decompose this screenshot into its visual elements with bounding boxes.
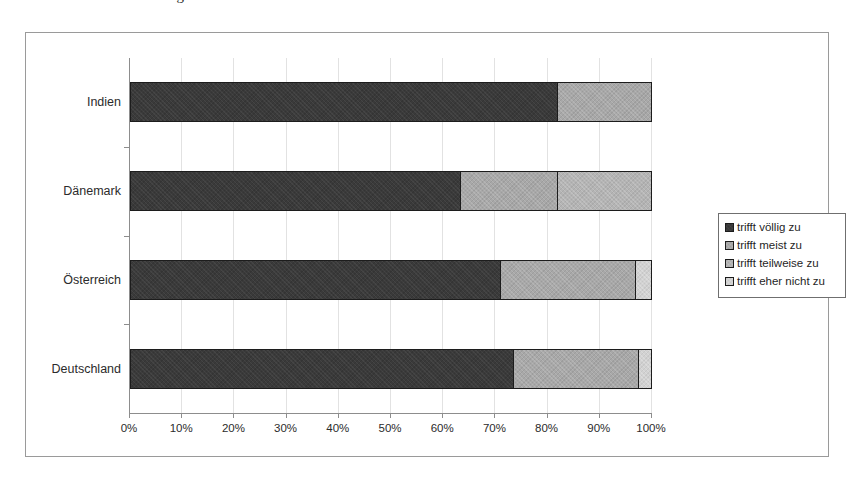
x-axis-tick xyxy=(390,413,391,418)
legend-item[interactable]: trifft eher nicht zu xyxy=(725,273,839,290)
x-axis-tick xyxy=(338,413,339,418)
x-axis-tick-label: 80% xyxy=(535,422,558,434)
bar-row xyxy=(130,171,652,211)
caption-strip: Abb. 5.5: Der das Managementfunktionen xyxy=(0,0,856,14)
x-axis-tick xyxy=(181,413,182,418)
bar-segment xyxy=(501,260,637,300)
bar-segment xyxy=(130,171,461,211)
x-axis-tick xyxy=(129,413,130,418)
y-axis-category-label: Österreich xyxy=(63,273,121,287)
legend-item-label: trifft völlig zu xyxy=(737,222,801,234)
x-axis-tick xyxy=(651,413,652,418)
chart-frame: IndienDänemarkÖsterreichDeutschland 0%10… xyxy=(25,32,829,457)
legend-swatch-icon xyxy=(725,223,734,232)
x-axis-tick-label: 60% xyxy=(431,422,454,434)
legend-swatch-icon xyxy=(725,241,734,250)
x-axis-tick xyxy=(286,413,287,418)
y-axis-category-label: Indien xyxy=(87,95,121,109)
x-axis-tick xyxy=(599,413,600,418)
plot-area: 0%10%20%30%40%50%60%70%80%90%100% xyxy=(129,58,651,413)
legend-item-label: trifft teilweise zu xyxy=(737,258,819,270)
x-axis-tick-label: 40% xyxy=(326,422,349,434)
x-axis-tick-label: 100% xyxy=(636,422,665,434)
x-axis-tick xyxy=(547,413,548,418)
x-axis-tick-label: 10% xyxy=(170,422,193,434)
bar-segment xyxy=(639,349,652,389)
x-axis-tick-label: 20% xyxy=(222,422,245,434)
legend-item[interactable]: trifft meist zu xyxy=(725,237,839,254)
x-axis-tick xyxy=(233,413,234,418)
legend-item[interactable]: trifft völlig zu xyxy=(725,219,839,236)
bar-segment xyxy=(130,349,514,389)
bar-segment xyxy=(130,260,501,300)
bar-row xyxy=(130,82,652,122)
y-axis-category-labels: IndienDänemarkÖsterreichDeutschland xyxy=(26,58,121,413)
bar-segment xyxy=(558,171,652,211)
figure-caption: Abb. 5.5: Der das Managementfunktionen xyxy=(28,0,289,4)
x-axis-tick xyxy=(494,413,495,418)
bar-segment xyxy=(130,82,558,122)
chart-legend: trifft völlig zutrifft meist zutrifft te… xyxy=(718,213,846,298)
bar-segment xyxy=(558,82,652,122)
legend-swatch-icon xyxy=(725,259,734,268)
y-axis-tick xyxy=(124,324,129,325)
x-axis-tick-label: 50% xyxy=(378,422,401,434)
y-axis-category-label: Deutschland xyxy=(52,362,122,376)
x-axis-tick-label: 90% xyxy=(587,422,610,434)
y-axis-tick xyxy=(124,147,129,148)
bar-row xyxy=(130,349,652,389)
bar-row xyxy=(130,260,652,300)
legend-item[interactable]: trifft teilweise zu xyxy=(725,255,839,272)
legend-swatch-icon xyxy=(725,277,734,286)
x-axis-tick-label: 70% xyxy=(483,422,506,434)
y-axis-tick xyxy=(124,236,129,237)
x-axis-tick-label: 0% xyxy=(121,422,138,434)
legend-item-label: trifft meist zu xyxy=(737,240,802,252)
legend-item-label: trifft eher nicht zu xyxy=(737,276,825,288)
x-axis-tick-label: 30% xyxy=(274,422,297,434)
bar-segment xyxy=(461,171,558,211)
bar-segment xyxy=(514,349,639,389)
y-axis-category-label: Dänemark xyxy=(63,184,121,198)
bar-segment xyxy=(636,260,652,300)
x-axis-tick xyxy=(442,413,443,418)
